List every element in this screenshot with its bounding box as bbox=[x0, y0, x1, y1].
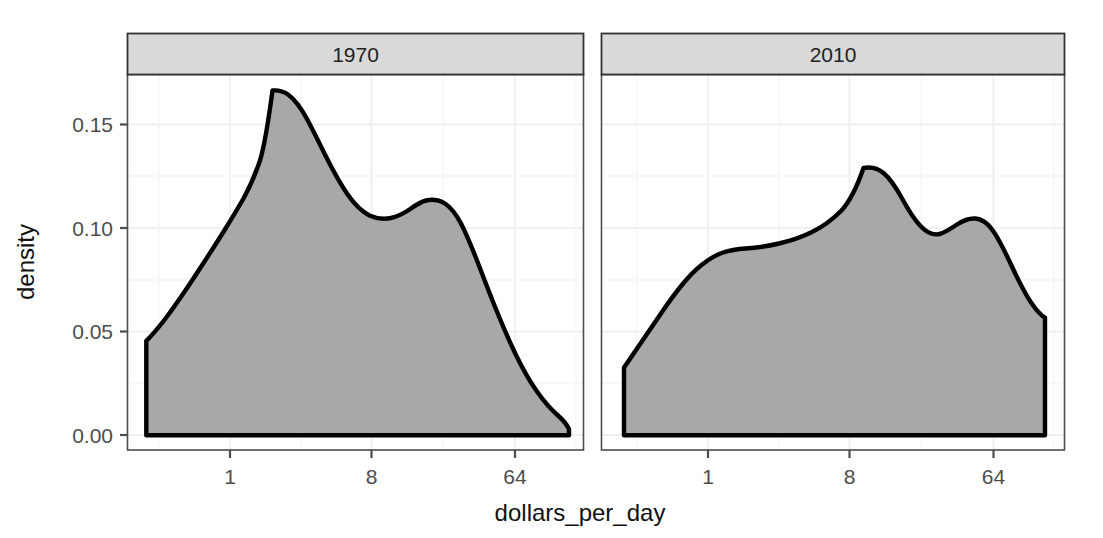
x-tick-label-right-8: 8 bbox=[844, 465, 856, 488]
y-axis-title: density bbox=[12, 224, 39, 300]
x-axis: 1 8 64 1 8 64 dollars_per_day bbox=[224, 450, 1005, 526]
x-tick-label-right-64: 64 bbox=[982, 465, 1006, 488]
panel-2010: 2010 bbox=[602, 34, 1065, 451]
density-facet-chart: 1970 bbox=[0, 0, 1103, 538]
chart-container: 1970 bbox=[0, 0, 1103, 538]
panel-1970: 1970 bbox=[128, 34, 584, 451]
y-axis: 0.15 0.10 0.05 0.00 density bbox=[12, 113, 128, 447]
x-tick-label-left-64: 64 bbox=[503, 465, 527, 488]
x-tick-label-left-8: 8 bbox=[366, 465, 378, 488]
strip-label-1970: 1970 bbox=[332, 43, 379, 66]
y-tick-label-000: 0.00 bbox=[72, 424, 113, 447]
x-tick-label-left-1: 1 bbox=[224, 465, 236, 488]
x-axis-title: dollars_per_day bbox=[495, 499, 666, 526]
x-tick-label-right-1: 1 bbox=[702, 465, 714, 488]
y-tick-label-010: 0.10 bbox=[72, 217, 113, 240]
strip-label-2010: 2010 bbox=[810, 43, 857, 66]
y-tick-label-005: 0.05 bbox=[72, 320, 113, 343]
y-tick-label-015: 0.15 bbox=[72, 113, 113, 136]
